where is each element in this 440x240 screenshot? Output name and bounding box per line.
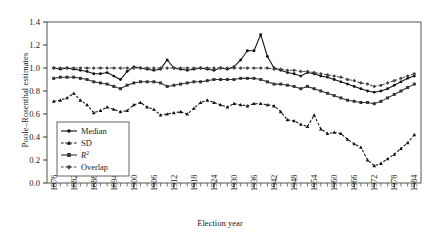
- chart-plot-area: 1876188218881894190019061912191819241930…: [0, 0, 440, 240]
- data-point-marker: [219, 66, 223, 70]
- data-point-marker: [393, 84, 396, 87]
- data-point-marker: [252, 66, 256, 70]
- y-axis-tick-label: 0.2: [29, 155, 40, 165]
- data-point-marker: [292, 68, 296, 72]
- x-axis-tick-label: 1984: [410, 175, 419, 191]
- data-point-marker: [346, 83, 349, 86]
- data-point-marker: [106, 83, 109, 86]
- data-point-marker: [279, 83, 282, 86]
- data-point-marker: [412, 72, 416, 76]
- chart-figure: Poole–Rosenthal estimates Election year …: [0, 0, 440, 240]
- data-point-marker: [119, 87, 122, 90]
- data-point-marker: [99, 72, 102, 75]
- data-point-marker: [373, 91, 376, 94]
- x-axis-tick-label: 1978: [390, 175, 399, 191]
- data-point-marker: [393, 93, 396, 96]
- data-point-marker: [85, 103, 89, 106]
- data-point-marker: [332, 74, 336, 78]
- data-point-marker: [319, 127, 323, 130]
- data-point-marker: [293, 85, 296, 88]
- data-point-marker: [206, 79, 209, 82]
- data-point-marker: [306, 85, 309, 88]
- data-point-marker: [165, 66, 169, 70]
- data-point-marker: [52, 66, 56, 70]
- x-axis-tick-label: 1930: [230, 175, 239, 191]
- x-axis-tick-label: 1906: [150, 175, 159, 191]
- x-axis-tick-label: 1894: [110, 175, 119, 191]
- y-axis-tick-label: 0.4: [29, 132, 40, 142]
- data-point-marker: [339, 96, 342, 99]
- data-point-marker: [406, 86, 409, 89]
- data-point-marker: [65, 96, 69, 99]
- data-point-marker: [67, 153, 71, 157]
- data-point-marker: [125, 66, 129, 70]
- data-point-marker: [139, 66, 143, 70]
- data-point-marker: [112, 75, 115, 78]
- y-axis-tick-label: 1.2: [29, 40, 40, 50]
- data-point-marker: [85, 66, 89, 70]
- data-point-marker: [379, 162, 383, 165]
- data-point-marker: [326, 73, 330, 77]
- data-point-marker: [212, 78, 215, 81]
- data-point-marker: [199, 80, 202, 83]
- data-point-marker: [199, 66, 203, 70]
- x-axis-tick-label: 1876: [50, 175, 59, 191]
- data-point-marker: [99, 66, 103, 70]
- data-point-marker: [132, 81, 135, 84]
- data-point-marker: [119, 78, 122, 81]
- data-point-marker: [86, 78, 89, 81]
- data-point-marker: [373, 102, 376, 105]
- data-point-marker: [346, 99, 349, 102]
- x-axis-tick-label: 1954: [310, 175, 319, 191]
- data-point-marker: [139, 80, 142, 83]
- data-point-marker: [293, 72, 296, 75]
- data-point-marker: [86, 70, 89, 73]
- x-axis-tick-label: 1972: [370, 175, 379, 191]
- data-point-marker: [185, 66, 189, 70]
- data-point-marker: [79, 77, 82, 80]
- data-point-marker: [192, 80, 195, 83]
- data-point-marker: [359, 101, 362, 104]
- x-axis-tick-label: 1948: [290, 175, 299, 191]
- data-point-marker: [212, 101, 216, 104]
- x-axis-tick-label: 1882: [70, 175, 79, 191]
- x-axis-tick-label: 1900: [130, 175, 139, 191]
- data-point-marker: [92, 72, 95, 75]
- y-axis-tick-label: 1.0: [29, 63, 40, 73]
- data-point-marker: [266, 55, 269, 58]
- data-point-marker: [233, 78, 236, 81]
- data-point-marker: [346, 78, 350, 82]
- legend-label-sd: SD: [81, 139, 92, 148]
- data-point-marker: [146, 80, 149, 83]
- data-point-marker: [359, 81, 363, 85]
- data-point-marker: [380, 90, 383, 93]
- data-point-marker: [333, 94, 336, 97]
- data-point-marker: [366, 82, 370, 86]
- data-point-marker: [259, 66, 263, 70]
- data-point-marker: [313, 87, 316, 90]
- data-point-marker: [119, 66, 123, 70]
- data-point-marker: [59, 76, 62, 79]
- data-point-marker: [166, 59, 169, 62]
- data-point-marker: [392, 79, 396, 83]
- data-point-marker: [199, 101, 203, 104]
- data-point-marker: [299, 75, 302, 78]
- data-point-marker: [400, 80, 403, 83]
- data-point-marker: [92, 80, 95, 83]
- x-axis-tick-label: 1936: [250, 175, 259, 191]
- data-point-marker: [139, 101, 143, 104]
- series-r-: [52, 76, 416, 105]
- series-line: [54, 77, 415, 103]
- data-point-marker: [266, 80, 269, 83]
- y-axis-tick-label: 0.6: [29, 109, 40, 119]
- data-point-marker: [413, 133, 417, 136]
- data-point-marker: [179, 83, 182, 86]
- legend-label-median: Median: [81, 127, 107, 136]
- data-point-marker: [66, 76, 69, 79]
- data-point-marker: [245, 66, 249, 70]
- data-point-marker: [152, 80, 155, 83]
- x-axis-tick-label: 1942: [270, 175, 279, 191]
- data-point-marker: [372, 85, 376, 89]
- data-point-marker: [386, 157, 390, 160]
- data-point-marker: [352, 79, 356, 83]
